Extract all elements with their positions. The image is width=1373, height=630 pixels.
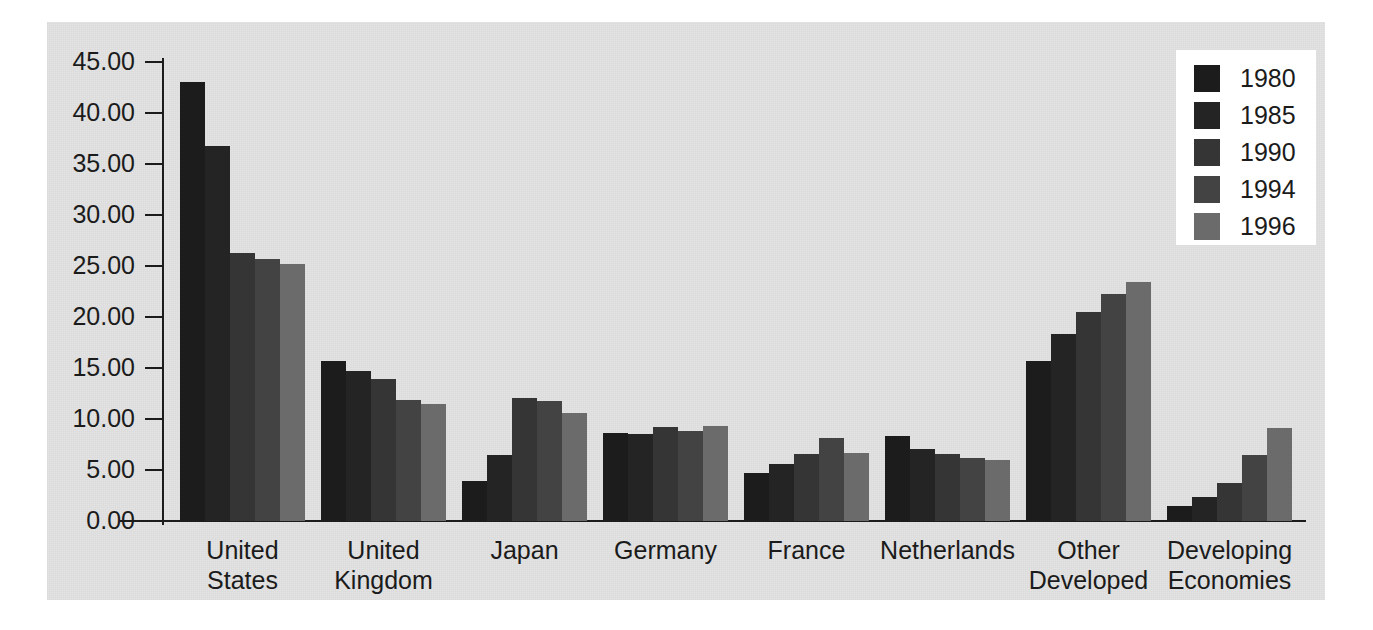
- legend-swatch-icon: [1194, 139, 1220, 166]
- x-axis-category-labels: UnitedStatesUnitedKingdomJapanGermanyFra…: [0, 528, 1373, 600]
- bar: [769, 464, 794, 521]
- plot-area: [0, 0, 1373, 521]
- bar: [321, 361, 346, 521]
- bar: [819, 438, 844, 521]
- x-axis-category-label: DevelopingEconomies: [1130, 536, 1330, 595]
- bar: [678, 431, 703, 521]
- bar: [1051, 334, 1076, 521]
- bar: [794, 454, 819, 521]
- legend-label: 1980: [1240, 66, 1296, 91]
- bar: [1242, 455, 1267, 521]
- legend-swatch-icon: [1194, 213, 1220, 240]
- bar-group: [1026, 0, 1151, 521]
- legend-swatch-icon: [1194, 176, 1220, 203]
- legend-row: 1996: [1194, 208, 1316, 245]
- bar: [180, 82, 205, 521]
- x-axis-category-label-line: Developing: [1130, 536, 1330, 566]
- bar: [462, 481, 487, 521]
- legend-row: 1990: [1194, 134, 1316, 171]
- bar: [628, 434, 653, 521]
- legend-row: 1994: [1194, 171, 1316, 208]
- bar: [1126, 282, 1151, 521]
- bar: [885, 436, 910, 521]
- bar: [1167, 506, 1192, 521]
- bar: [487, 455, 512, 521]
- legend-swatch-icon: [1194, 65, 1220, 92]
- bar: [371, 379, 396, 521]
- chart-legend: 19801985199019941996: [1176, 50, 1316, 245]
- legend-swatch-icon: [1194, 102, 1220, 129]
- legend-row: 1980: [1194, 60, 1316, 97]
- bar: [512, 398, 537, 521]
- bar: [703, 426, 728, 521]
- legend-label: 1990: [1240, 140, 1296, 165]
- bar: [421, 404, 446, 521]
- bar-group: [180, 0, 305, 521]
- bar: [1192, 497, 1217, 521]
- bar: [255, 259, 280, 521]
- bar-group: [603, 0, 728, 521]
- bar-group: [462, 0, 587, 521]
- legend-row: 1985: [1194, 97, 1316, 134]
- bar: [603, 433, 628, 521]
- bar: [910, 449, 935, 521]
- bar: [280, 264, 305, 521]
- bar: [653, 427, 678, 521]
- legend-label: 1994: [1240, 177, 1296, 202]
- bar: [744, 473, 769, 521]
- bar: [346, 371, 371, 521]
- bar: [205, 146, 230, 521]
- bar: [985, 460, 1010, 521]
- bar: [230, 253, 255, 521]
- bar-group: [744, 0, 869, 521]
- bar: [1267, 428, 1292, 521]
- bar: [935, 454, 960, 521]
- bar: [396, 400, 421, 521]
- bar: [562, 413, 587, 521]
- bar: [537, 401, 562, 521]
- bar: [960, 458, 985, 521]
- chart-page: 45.0040.0035.0030.0025.0020.0015.0010.00…: [0, 0, 1373, 630]
- x-axis-category-label-line: Kingdom: [284, 566, 484, 596]
- bar: [844, 453, 869, 521]
- bar: [1026, 361, 1051, 521]
- legend-label: 1996: [1240, 214, 1296, 239]
- bar-group: [321, 0, 446, 521]
- bar: [1076, 312, 1101, 521]
- bar: [1101, 294, 1126, 521]
- x-axis-category-label-line: Economies: [1130, 566, 1330, 596]
- bar: [1217, 483, 1242, 521]
- bar-group: [885, 0, 1010, 521]
- legend-label: 1985: [1240, 103, 1296, 128]
